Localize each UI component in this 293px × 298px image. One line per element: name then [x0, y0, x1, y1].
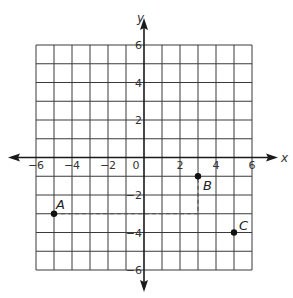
y-tick-label: −4 [126, 227, 142, 240]
x-tick-label: 0 [133, 159, 140, 172]
point-b [195, 173, 201, 179]
y-tick-label: −6 [126, 264, 142, 277]
axes: xy [8, 11, 289, 292]
y-axis-label: y [136, 11, 145, 25]
point-c [231, 229, 237, 235]
x-tick-label: −2 [100, 159, 116, 172]
point-label-c: C [239, 218, 249, 233]
y-tick-label: 4 [135, 77, 142, 90]
coordinate-plane: xy −6−4−20246642−2−4−6 ABC [0, 0, 293, 298]
x-tick-label: −6 [28, 159, 44, 172]
x-tick-label: 2 [177, 159, 184, 172]
x-axis-label: x [280, 151, 289, 165]
point-label-a: A [55, 197, 65, 212]
x-tick-label: 6 [249, 159, 256, 172]
y-tick-label: 2 [135, 114, 142, 127]
y-tick-label: −2 [126, 189, 142, 202]
points: ABC [51, 173, 249, 236]
y-tick-label: 6 [135, 39, 142, 52]
x-tick-label: 4 [213, 159, 220, 172]
point-label-b: B [203, 178, 212, 193]
x-tick-label: −4 [64, 159, 80, 172]
